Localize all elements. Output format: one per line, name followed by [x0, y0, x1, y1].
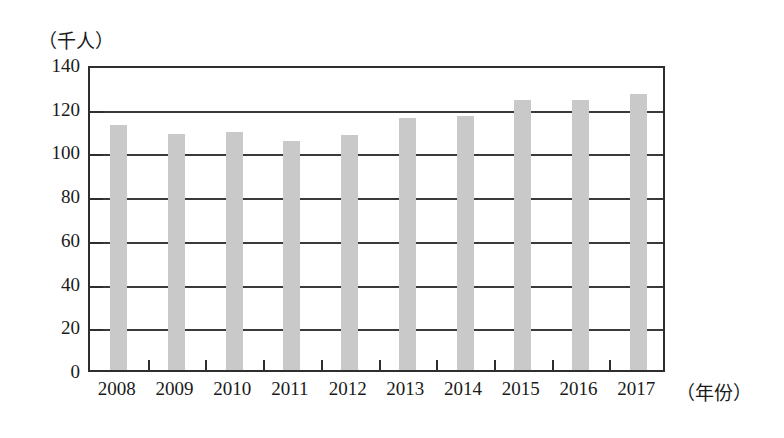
x-tick-mark — [205, 360, 207, 370]
x-axis-tick-label: 2009 — [147, 378, 203, 400]
y-axis-tick-label: 120 — [36, 100, 80, 119]
bar — [226, 132, 243, 370]
bar — [630, 94, 647, 370]
bar — [341, 135, 358, 370]
x-axis-tick-label: 2010 — [204, 378, 260, 400]
x-tick-mark — [552, 360, 554, 370]
y-axis-tick-label: 20 — [36, 318, 80, 337]
x-axis-tick-label: 2012 — [320, 378, 376, 400]
x-axis-unit-label: （年份） — [676, 378, 752, 405]
plot-area — [88, 66, 665, 372]
x-tick-mark — [148, 360, 150, 370]
y-tick-mark — [90, 111, 103, 113]
y-tick-mark — [90, 242, 103, 244]
y-axis-tick-label: 100 — [36, 143, 80, 162]
bar — [399, 118, 416, 370]
x-axis-tick-label: 2008 — [89, 378, 145, 400]
x-axis-tick-label: 2016 — [550, 378, 606, 400]
bar — [514, 100, 531, 370]
x-tick-mark — [321, 360, 323, 370]
x-tick-mark — [263, 360, 265, 370]
bar — [110, 125, 127, 370]
bar — [283, 141, 300, 371]
x-axis-tick-label: 2013 — [377, 378, 433, 400]
bar — [168, 134, 185, 370]
y-axis-tick-label: 40 — [36, 275, 80, 294]
x-axis-tick-label: 2011 — [262, 378, 318, 400]
y-axis-tick-label: 0 — [36, 362, 80, 381]
bar-chart: （千人） （年份） 020406080100120140200820092010… — [0, 0, 784, 438]
x-tick-mark — [494, 360, 496, 370]
bar — [572, 100, 589, 370]
y-axis-unit-label: （千人） — [38, 26, 114, 53]
x-axis-tick-label: 2015 — [493, 378, 549, 400]
y-axis-tick-label: 80 — [36, 187, 80, 206]
y-axis-tick-label: 60 — [36, 231, 80, 250]
x-tick-mark — [436, 360, 438, 370]
x-tick-mark — [609, 360, 611, 370]
x-axis-tick-label: 2014 — [435, 378, 491, 400]
y-tick-mark — [90, 154, 103, 156]
y-tick-mark — [90, 286, 103, 288]
x-tick-mark — [379, 360, 381, 370]
x-axis-tick-label: 2017 — [608, 378, 664, 400]
bar — [457, 116, 474, 370]
y-tick-mark — [90, 198, 103, 200]
y-tick-mark — [90, 329, 103, 331]
y-axis-tick-label: 140 — [36, 56, 80, 75]
